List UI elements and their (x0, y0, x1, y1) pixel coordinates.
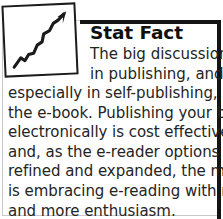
body-line: and more enthusiasm. (8, 202, 211, 219)
body-line: especially in self-publishing, is (8, 84, 211, 104)
body-line: is embracing e-reading with more (8, 182, 211, 202)
growth-chart-icon (1, 2, 78, 77)
callout-body: especially in self-publishing, is the e-… (8, 84, 211, 219)
growth-arrow-glyph (1, 2, 78, 77)
body-line: refined and expanded, the market (8, 162, 211, 182)
body-line: the e-book. Publishing your book (8, 104, 211, 124)
stat-fact-callout: Stat Fact The big discussion in publishi… (0, 0, 223, 219)
body-line: electronically is cost effective, (8, 123, 211, 143)
body-line: and, as the e-reader options are (8, 143, 211, 163)
